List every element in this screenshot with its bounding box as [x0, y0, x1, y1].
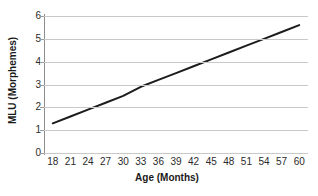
y-tick-mark-2: [40, 107, 44, 108]
chart-container: MLU (Morphemes) 0123456 1821242730333639…: [0, 0, 318, 196]
y-tick-mark-6: [40, 16, 44, 17]
y-tick-mark-0: [40, 153, 44, 154]
mlu-line: [53, 25, 299, 123]
y-tick-mark-3: [40, 85, 44, 86]
x-axis-tick-labels: 182124273033363942454851545760: [44, 155, 308, 169]
gridline-y-3: [44, 85, 308, 86]
y-tick-label-1: 1: [27, 125, 41, 135]
gridline-y-5: [44, 39, 308, 40]
gridline-y-4: [44, 62, 308, 63]
y-tick-label-5: 5: [27, 34, 41, 44]
y-tick-label-0: 0: [27, 148, 41, 158]
y-tick-label-6: 6: [27, 11, 41, 21]
x-axis-title: Age (Months): [26, 172, 308, 183]
y-tick-label-3: 3: [27, 80, 41, 90]
plot-area: [44, 16, 308, 153]
gridline-y-1: [44, 130, 308, 131]
gridline-y-2: [44, 107, 308, 108]
gridline-y-0: [44, 153, 308, 154]
y-tick-mark-1: [40, 130, 44, 131]
gridline-y-6: [44, 16, 308, 17]
y-tick-mark-4: [40, 62, 44, 63]
y-axis-title: MLU (Morphemes): [0, 0, 26, 160]
x-tick-label-60: 60: [289, 155, 309, 168]
y-tick-label-4: 4: [27, 57, 41, 67]
y-axis-tick-labels: 0123456: [26, 0, 41, 196]
y-tick-label-2: 2: [27, 102, 41, 112]
y-tick-mark-5: [40, 39, 44, 40]
y-axis-title-text: MLU (Morphemes): [8, 36, 19, 123]
